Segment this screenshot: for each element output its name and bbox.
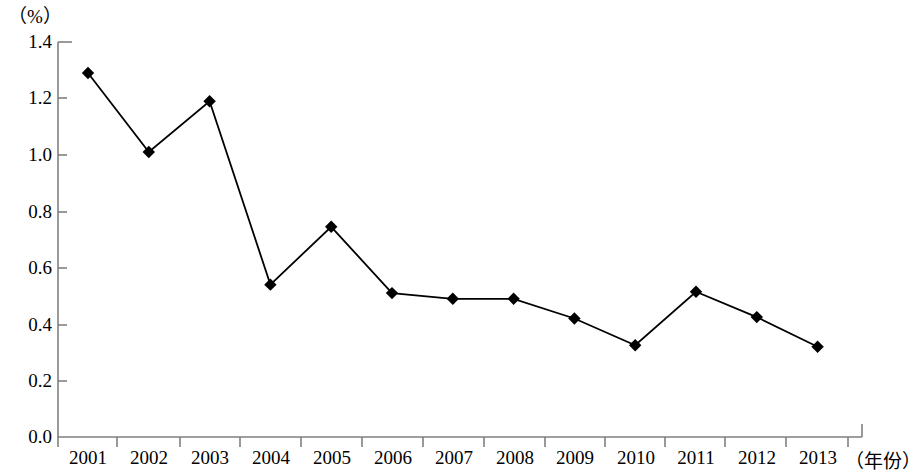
x-tick-label: 2005 xyxy=(313,447,351,469)
series-line xyxy=(88,73,818,347)
data-point-marker xyxy=(447,293,459,305)
data-point-marker xyxy=(568,312,580,324)
y-tick-marks xyxy=(58,98,67,381)
x-tick-label: 2011 xyxy=(677,447,714,469)
series-markers xyxy=(82,67,824,353)
x-tick-label: 2008 xyxy=(496,447,534,469)
x-tick-label: 2001 xyxy=(69,447,107,469)
x-tick-label: 2006 xyxy=(374,447,412,469)
x-tick-marks xyxy=(58,437,848,447)
x-tick-label: 2003 xyxy=(191,447,229,469)
x-tick-label: 2007 xyxy=(435,447,473,469)
data-point-marker xyxy=(811,341,823,353)
x-tick-label: 2009 xyxy=(556,447,594,469)
x-tick-label: 2010 xyxy=(617,447,655,469)
data-point-marker xyxy=(751,311,763,323)
x-axis-title: （年份） xyxy=(845,446,915,473)
plot-area xyxy=(0,0,915,473)
axis-spines xyxy=(58,42,862,437)
x-tick-label: 2012 xyxy=(738,447,776,469)
data-point-marker xyxy=(507,293,519,305)
line-chart: （%） 1.4 1.2 1.0 0.8 0.6 0.4 0.2 0.0 xyxy=(0,0,915,473)
x-tick-label: 2004 xyxy=(252,447,290,469)
x-tick-label: 2013 xyxy=(799,447,837,469)
x-tick-label: 2002 xyxy=(130,447,168,469)
